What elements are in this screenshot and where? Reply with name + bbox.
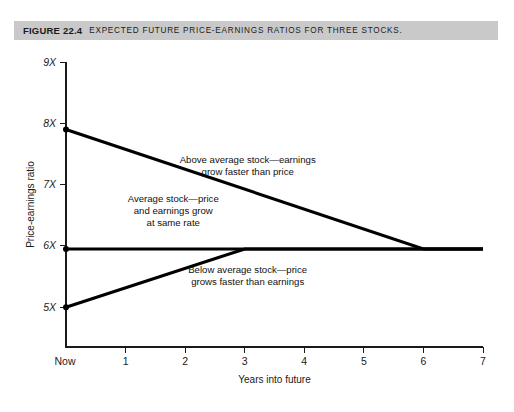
y-tick-label: 6X [43,239,57,251]
x-tick-label: 7 [480,355,486,367]
y-axis-tick-labels: 5X6X7X8X9X [43,56,57,313]
x-axis-ticks [126,347,483,353]
figure-number: FIGURE 22.4 [23,25,82,36]
average-label: Average stock—priceand earnings growat s… [128,193,219,228]
chart-axes [66,62,483,347]
x-tick-label: 5 [361,355,367,367]
annotation-line: and earnings grow [134,205,213,216]
y-tick-label: 9X [43,56,57,68]
chart-plot-area: 5X6X7X8X9X Now1234567 Price-earnings rat… [0,42,514,412]
x-tick-label: 2 [182,355,188,367]
line-chart: 5X6X7X8X9X Now1234567 Price-earnings rat… [0,42,514,412]
chart-annotations: Above average stock—earningsgrow faster … [128,154,316,287]
series-start-dot [63,304,69,310]
x-tick-label: Now [54,355,75,367]
figure-container: FIGURE 22.4 Expected future price-earnin… [0,0,514,412]
annotation-line: grow faster than price [202,166,294,177]
x-tick-label: 1 [123,355,129,367]
figure-caption-bar: FIGURE 22.4 Expected future price-earnin… [14,21,498,40]
y-axis-title: Price-earnings ratio [25,161,36,248]
below-average-label: Below average stock—pricegrows faster th… [188,264,307,287]
annotation-line: Average stock—price [128,193,219,204]
annotation-line: Above average stock—earnings [180,154,316,165]
figure-title: Expected future price-earnings ratios fo… [89,26,402,35]
y-tick-label: 8X [43,117,57,129]
annotation-line: grows faster than earnings [191,276,304,287]
x-tick-label: 6 [421,355,427,367]
series-line [66,129,483,249]
y-tick-label: 7X [43,178,57,190]
y-axis-ticks [60,62,66,307]
annotation-line: at same rate [147,217,200,228]
x-axis-tick-labels: Now1234567 [54,355,486,367]
x-axis-title: Years into future [238,374,311,385]
y-tick-label: 5X [43,301,57,313]
series-start-dot [63,246,69,252]
annotation-line: Below average stock—price [188,264,307,275]
x-tick-label: 4 [301,355,307,367]
series-start-dot [63,126,69,132]
x-tick-label: 3 [242,355,248,367]
